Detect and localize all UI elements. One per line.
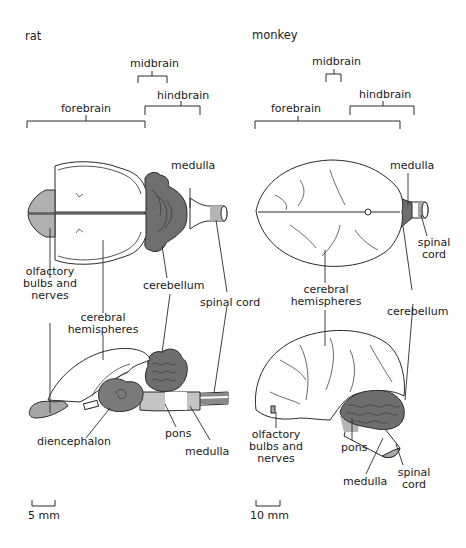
rat-scale-bar <box>32 500 55 506</box>
monkey-cerebral-hemispheres-label: cerebral hemispheres <box>288 284 364 308</box>
monkey-midbrain-label: midbrain <box>312 56 361 68</box>
rat-midbrain-bracket <box>138 71 167 83</box>
monkey-spinal-cord-bottom-label: spinal cord <box>392 467 436 491</box>
rat-forebrain-bracket <box>27 115 145 128</box>
rat-diencephalon-label: diencephalon <box>37 436 111 448</box>
rat-lateral-view <box>29 348 228 418</box>
monkey-hindbrain-bracket <box>350 101 414 115</box>
monkey-pons-label: pons <box>341 442 367 454</box>
rat-olfactory-label: olfactory bulbs and nerves <box>22 266 78 302</box>
monkey-olfactory-label: olfactory bulbs and nerves <box>248 429 304 465</box>
rat-cerebellum-label: cerebellum <box>143 280 204 292</box>
rat-spinal-cord-label: spinal cord <box>200 297 260 309</box>
monkey-hindbrain-label: hindbrain <box>359 89 411 101</box>
monkey-forebrain-bracket <box>255 116 400 129</box>
rat-title: rat <box>25 30 41 42</box>
rat-dorsal-view <box>28 162 227 265</box>
monkey-spinal-cord-top-label: spinal cord <box>412 237 456 261</box>
monkey-scale-label: 10 mm <box>250 510 289 522</box>
rat-pons-label: pons <box>165 428 191 440</box>
monkey-medulla-top-label: medulla <box>390 160 434 172</box>
monkey-scale-bar <box>256 500 280 506</box>
rat-cerebral-hemispheres-label: cerebral hemispheres <box>66 312 140 336</box>
rat-medulla-bottom-label: medulla <box>185 446 229 458</box>
rat-midbrain-label: midbrain <box>130 58 179 70</box>
rat-hindbrain-label: hindbrain <box>157 90 209 102</box>
rat-medulla-top-label: medulla <box>171 160 215 172</box>
monkey-title: monkey <box>252 29 298 41</box>
monkey-medulla-bottom-label: medulla <box>343 476 387 488</box>
monkey-forebrain-label: forebrain <box>271 103 321 115</box>
monkey-midbrain-bracket <box>326 69 341 82</box>
rat-hindbrain-bracket <box>145 101 200 115</box>
monkey-cerebellum-label: cerebellum <box>387 306 448 318</box>
rat-scale-label: 5 mm <box>28 510 60 522</box>
rat-forebrain-label: forebrain <box>61 103 111 115</box>
monkey-dorsal-view <box>256 160 428 266</box>
